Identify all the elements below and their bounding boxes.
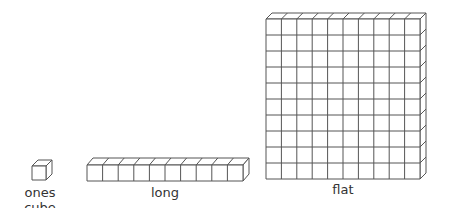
long-drawing	[87, 158, 249, 181]
ones-cube-drawing	[32, 160, 52, 180]
base-ten-blocks-diagram	[0, 0, 450, 208]
ones-cube-label: ones cube	[8, 185, 72, 208]
long-label: long	[135, 185, 195, 200]
flat-drawing	[266, 13, 426, 179]
flat-label: flat	[323, 182, 363, 197]
